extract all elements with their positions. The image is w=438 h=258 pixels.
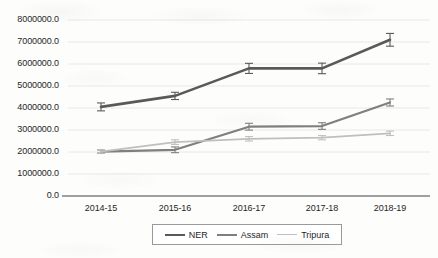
chart-container: 0.01000000.02000000.03000000.04000000.05… — [0, 0, 438, 258]
series-line-tripura — [101, 133, 390, 151]
x-axis-tick-label: 2014-15 — [66, 203, 136, 213]
y-axis-tick-label: 0.0 — [47, 190, 59, 200]
y-axis-tick-label: 6000000.0 — [17, 58, 59, 68]
y-axis-tick-label: 8000000.0 — [17, 14, 59, 24]
x-axis-tick-label: 2016-17 — [214, 203, 284, 213]
chart-legend: NERAssamTripura — [152, 224, 342, 245]
legend-label: NER — [189, 230, 208, 240]
series-line-assam — [101, 103, 390, 152]
y-axis-tick-label: 3000000.0 — [17, 124, 59, 134]
legend-item-assam[interactable]: Assam — [217, 230, 269, 240]
legend-label: Tripura — [301, 230, 329, 240]
y-axis-tick-label: 4000000.0 — [17, 102, 59, 112]
legend-line-swatch — [217, 234, 237, 236]
y-axis-tick-label: 1000000.0 — [17, 168, 59, 178]
legend-item-ner[interactable]: NER — [165, 230, 208, 240]
chart-plot-area — [0, 0, 438, 258]
x-axis-tick-label: 2018-19 — [355, 203, 425, 213]
x-axis-tick-label: 2017-18 — [287, 203, 357, 213]
legend-line-swatch — [165, 234, 185, 236]
y-axis-tick-label: 7000000.0 — [17, 36, 59, 46]
legend-line-swatch — [277, 234, 297, 235]
series-assam — [97, 99, 394, 153]
x-axis-tick-label: 2015-16 — [140, 203, 210, 213]
legend-item-tripura[interactable]: Tripura — [277, 230, 329, 240]
legend-label: Assam — [241, 230, 269, 240]
y-axis-tick-label: 2000000.0 — [17, 146, 59, 156]
y-axis-tick-label: 5000000.0 — [17, 80, 59, 90]
series-ner — [97, 33, 394, 110]
